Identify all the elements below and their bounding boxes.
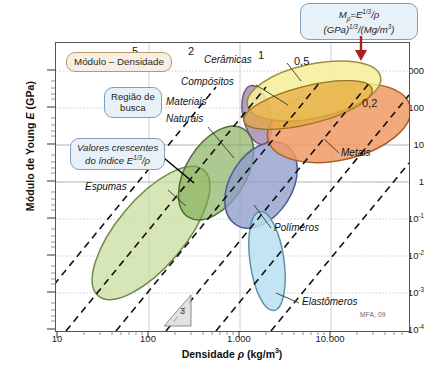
- x-axis-title-text: Densidade: [182, 348, 238, 360]
- y-axis-title-text: Módulo de Young: [24, 120, 36, 212]
- index-callout-line1: Valores crescentes: [77, 142, 158, 153]
- slope-triangle-label: 3: [180, 306, 185, 316]
- guideline-label-2: 2: [188, 45, 194, 57]
- family-label-polimeros: Polímeros: [274, 222, 319, 233]
- x-axis-ticks: [55, 330, 409, 340]
- guideline-label-0-2: 0,2: [362, 97, 377, 109]
- x-axis-title: Densidade ρ (kg/m3): [55, 347, 409, 360]
- title-callout-text: Módulo – Densidade: [74, 56, 164, 67]
- family-label-materiais: Materiais: [166, 96, 207, 107]
- family-label-metais: Metais: [341, 147, 370, 158]
- formula-line-2: (GPa)1/3/(Mg/m3): [306, 23, 412, 36]
- search-region-line1: Região de: [111, 91, 155, 102]
- family-label-naturais: Naturais: [166, 113, 203, 124]
- y-axis-title-symbol: E: [24, 112, 36, 119]
- y-axis-title-unit: (GPa): [24, 81, 36, 113]
- search-region-callout-box: Região de busca: [104, 87, 162, 118]
- guideline-label-0-5: 0,5: [294, 55, 309, 67]
- family-label-ceramicas: Cerâmicas: [204, 54, 252, 65]
- index-formula-callout: Mρ=E1/3/ρ (GPa)1/3/(Mg/m3): [300, 3, 418, 40]
- formula-pointer-arrow: [350, 36, 374, 62]
- plot-area: 5 2 1 0,5 0,2 3 Cerâmicas Compósitos Mat…: [55, 42, 410, 332]
- y-axis-title: Módulo de Young E (GPa): [24, 56, 36, 236]
- title-callout-box: Módulo – Densidade: [66, 52, 172, 72]
- family-label-elastomeros: Elastômeros: [302, 296, 358, 307]
- search-region-line2: busca: [120, 102, 146, 113]
- author-signature: MFA, 09: [360, 311, 386, 318]
- formula-line-1: Mρ=E1/3/ρ: [306, 8, 412, 23]
- index-callout-box: Valores crescentes do índice E1/3/ρ: [70, 138, 165, 170]
- index-callout-line2: do índice E1/3/ρ: [85, 155, 150, 166]
- family-label-espumas: Espumas: [85, 181, 127, 192]
- y-axis-ticks: [46, 42, 56, 331]
- ashby-chart-figure: Módulo de Young E (GPa) 1.000 100 10 1 1…: [0, 0, 424, 369]
- family-label-compositos: Compósitos: [181, 76, 234, 87]
- guideline-label-1: 1: [258, 49, 264, 61]
- slope-triangle: [164, 295, 191, 326]
